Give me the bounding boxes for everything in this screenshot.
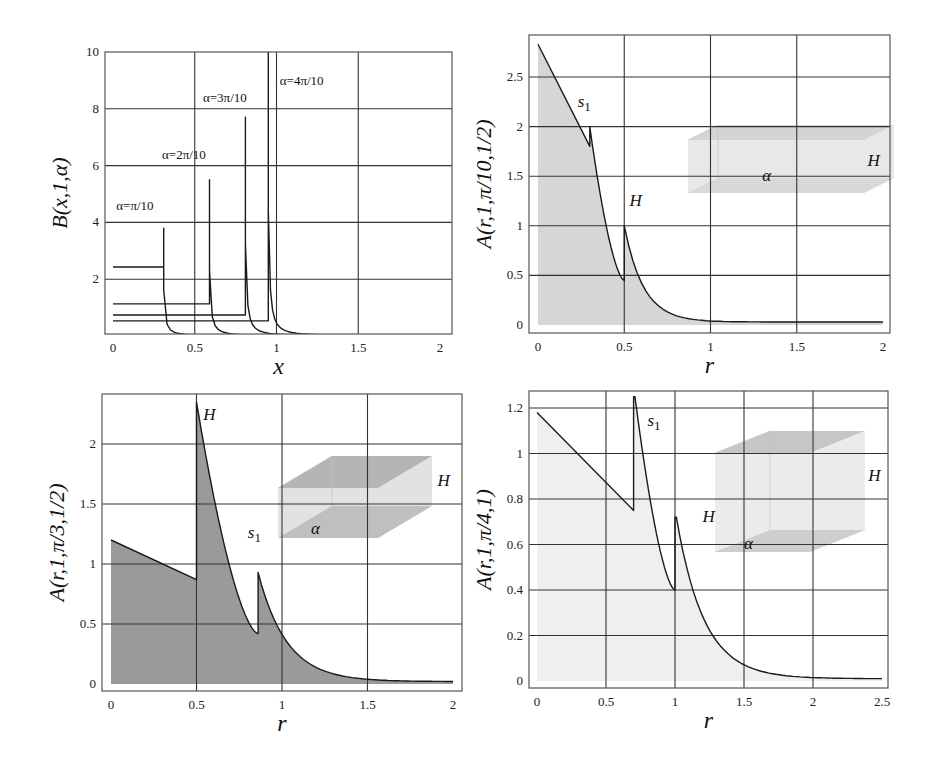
annotation-label: α bbox=[744, 534, 754, 553]
annotation-label: H bbox=[702, 507, 717, 526]
y-tick-label: 0.5 bbox=[507, 267, 523, 282]
y-tick-label: 0.8 bbox=[507, 491, 523, 506]
y-tick-label: 0 bbox=[90, 676, 97, 691]
y-axis-label: A(r,1,π/3,1/2) bbox=[44, 484, 69, 604]
annotation-label: H bbox=[867, 466, 882, 485]
x-tick-label: 0 bbox=[108, 697, 115, 712]
y-tick-label: 0.5 bbox=[80, 616, 96, 631]
x-tick-label: 0.5 bbox=[598, 694, 614, 709]
y-tick-label: 6 bbox=[93, 158, 100, 173]
series-label: α=2π/10 bbox=[162, 147, 206, 162]
series-label: α=4π/10 bbox=[280, 73, 324, 88]
y-tick-label: 0.6 bbox=[507, 537, 524, 552]
annotation-label: s1 bbox=[647, 411, 660, 433]
figure-canvas: α=π/10α=2π/10α=3π/10α=4π/1000.511.522468… bbox=[0, 0, 935, 768]
x-tick-label: 0 bbox=[110, 340, 117, 355]
box-diagram-inset bbox=[715, 431, 865, 552]
x-axis-label: x bbox=[272, 353, 284, 379]
y-tick-label: 2 bbox=[90, 436, 97, 451]
plot-frame bbox=[105, 52, 452, 334]
annotation-label: H bbox=[628, 191, 643, 210]
y-tick-label: 8 bbox=[93, 101, 100, 116]
y-tick-label: 1.2 bbox=[507, 400, 523, 415]
box-diagram-inset bbox=[688, 125, 894, 193]
annotation-label: s1 bbox=[578, 92, 591, 114]
y-tick-label: 0.2 bbox=[507, 628, 523, 643]
y-tick-label: 2 bbox=[517, 119, 524, 134]
x-tick-label: 1.5 bbox=[359, 697, 375, 712]
y-axis-label: A(r,1,π/10,1/2) bbox=[471, 120, 496, 251]
x-axis-label: r bbox=[704, 707, 714, 733]
series-label: α=3π/10 bbox=[203, 90, 247, 105]
x-tick-label: 1.5 bbox=[350, 340, 366, 355]
y-tick-label: 10 bbox=[86, 44, 99, 59]
annotation-label: H bbox=[866, 151, 881, 170]
x-tick-label: 2 bbox=[450, 697, 457, 712]
x-tick-label: 1.5 bbox=[736, 694, 752, 709]
annotation-label: α bbox=[311, 519, 321, 538]
annotation-label: α bbox=[762, 166, 772, 185]
y-tick-label: 0.4 bbox=[507, 582, 524, 597]
x-axis-label: r bbox=[705, 352, 715, 378]
x-tick-label: 2.5 bbox=[874, 694, 890, 709]
y-tick-label: 1.5 bbox=[507, 168, 523, 183]
annotation-label: H bbox=[202, 405, 217, 424]
x-tick-label: 1.5 bbox=[789, 339, 805, 354]
y-tick-label: 2 bbox=[93, 271, 100, 286]
y-tick-label: 1 bbox=[517, 446, 524, 461]
x-tick-label: 2 bbox=[810, 694, 817, 709]
x-tick-label: 0.5 bbox=[616, 339, 632, 354]
y-tick-label: 1 bbox=[517, 218, 524, 233]
x-tick-label: 0 bbox=[535, 339, 542, 354]
grid bbox=[105, 52, 452, 334]
series-label: α=π/10 bbox=[116, 198, 153, 213]
x-tick-label: 2 bbox=[880, 339, 887, 354]
chart-B-vs-x: α=π/10α=2π/10α=3π/10α=4π/1000.511.522468… bbox=[47, 38, 452, 379]
box-diagram-inset bbox=[278, 456, 432, 538]
y-tick-label: 1.5 bbox=[80, 496, 96, 511]
chart-A-pi-over-3: 00.511.5200.511.52rA(r,1,π/3,1/2)Hs1Hα bbox=[44, 394, 462, 736]
x-tick-label: 0.5 bbox=[187, 340, 203, 355]
y-tick-label: 0 bbox=[517, 673, 524, 688]
y-tick-label: 1 bbox=[90, 556, 97, 571]
y-tick-label: 4 bbox=[93, 214, 100, 229]
x-tick-label: 2 bbox=[437, 340, 444, 355]
annotation-label: H bbox=[437, 471, 452, 490]
chart-A-pi-over-10: 00.511.5200.511.522.5rA(r,1,π/10,1/2)s1H… bbox=[471, 35, 894, 378]
x-tick-label: 1 bbox=[672, 694, 679, 709]
annotation-label: s1 bbox=[248, 523, 261, 545]
x-axis-label: r bbox=[277, 710, 287, 736]
y-tick-label: 0 bbox=[517, 317, 524, 332]
y-axis-label: B(x,1,α) bbox=[47, 157, 72, 228]
y-tick-label: 2.5 bbox=[507, 69, 523, 84]
x-tick-label: 0 bbox=[534, 694, 541, 709]
x-tick-label: 0.5 bbox=[188, 697, 204, 712]
chart-A-pi-over-4: 00.511.522.500.20.40.60.811.2rA(r,1,π/4,… bbox=[471, 391, 890, 733]
y-axis-label: A(r,1,π/4,1) bbox=[471, 489, 496, 592]
